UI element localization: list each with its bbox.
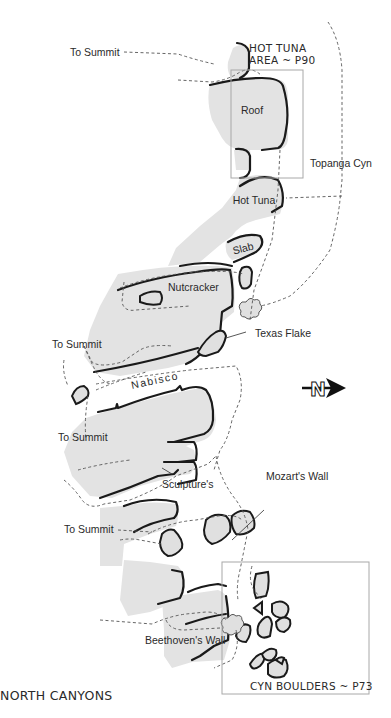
wall-label-texas-flake: Texas Flake xyxy=(255,327,311,339)
svg-text:N: N xyxy=(310,378,326,400)
wall-label-beethovens-wall: Beethoven's Wall xyxy=(145,634,225,646)
wall-label-mozarts-wall: Mozart's Wall xyxy=(266,470,328,482)
wall-label-nutcracker: Nutcracker xyxy=(168,281,219,293)
wall-label-roof: Roof xyxy=(241,104,263,116)
area-label-cyn-boulders: CYN BOULDERS ~ P73 xyxy=(250,680,373,692)
north-arrow-icon: N xyxy=(302,378,346,400)
svg-text:AREA ~ P90: AREA ~ P90 xyxy=(249,54,315,66)
svg-text:HOT TUNA: HOT TUNA xyxy=(249,42,307,54)
area-label-hot-tuna: HOT TUNA AREA ~ P90 xyxy=(249,42,315,66)
trail-label-to-summit-4: To Summit xyxy=(64,523,114,535)
wall-label-hot-tuna: Hot Tuna xyxy=(233,194,276,206)
map-title: NORTH CANYONS xyxy=(0,688,113,703)
trail-label-topanga-cyn: Topanga Cyn xyxy=(310,157,372,169)
trail-label-to-summit-3: To Summit xyxy=(58,431,108,443)
trail-label-to-summit-1: To Summit xyxy=(70,46,120,58)
north-canyons-map: N HOT TUNA AREA ~ P90 CYN BOULDERS ~ P73… xyxy=(0,0,391,718)
wall-label-sculptures: Sculpture's xyxy=(162,478,214,490)
trail-label-to-summit-2: To Summit xyxy=(52,338,102,350)
rock-masses xyxy=(64,45,288,668)
bush-icon xyxy=(239,298,262,319)
